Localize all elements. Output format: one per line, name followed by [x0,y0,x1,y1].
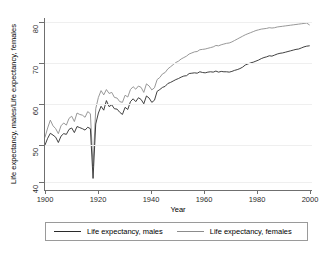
gridline-60 [44,104,312,105]
x-tick-label-1900: 1900 [27,195,63,204]
legend-label-males: Life expectancy, males [87,227,163,236]
y-tick-label-70: 70 [32,63,40,77]
x-tick-label-1940: 1940 [133,195,169,204]
gridline-40 [44,182,312,183]
x-tick-2000 [310,190,311,194]
y-axis-line [44,18,45,191]
y-axis-title-wrap: Life expectancy, males/Life expectancy, … [8,18,20,190]
y-tick-label-80: 80 [32,22,40,36]
y-tick-label-60: 60 [32,104,40,118]
x-tick-label-1980: 1980 [239,195,275,204]
x-axis-title: Year [44,205,312,215]
legend-swatch-females [177,231,204,232]
gridline-80 [44,22,312,23]
x-tick-1980 [257,190,258,194]
x-tick-label-1920: 1920 [80,195,116,204]
line-males [45,46,309,179]
legend-label-females: Life expectancy, females [210,227,292,236]
plot-area [44,18,312,190]
y-tick-label-40: 40 [32,182,40,196]
y-axis-title: Life expectancy, males/Life expectancy, … [8,18,20,190]
x-tick-1940 [151,190,152,194]
gridline-70 [44,63,312,64]
x-axis-line [44,190,312,191]
x-tick-label-1960: 1960 [186,195,222,204]
x-tick-1960 [204,190,205,194]
y-tick-label-50: 50 [32,145,40,159]
legend-swatch-males [54,231,81,232]
chart-root: 80 70 60 50 40 1900 1920 1940 1960 1980 … [0,0,324,253]
x-tick-1900 [45,190,46,194]
x-tick-label-2000: 2000 [292,195,324,204]
chart-legend: Life expectancy, males Life expectancy, … [45,222,308,241]
legend-item-males[interactable]: Life expectancy, males [46,223,163,240]
gridline-50 [44,145,312,146]
legend-item-females[interactable]: Life expectancy, females [163,223,292,240]
x-tick-1920 [98,190,99,194]
